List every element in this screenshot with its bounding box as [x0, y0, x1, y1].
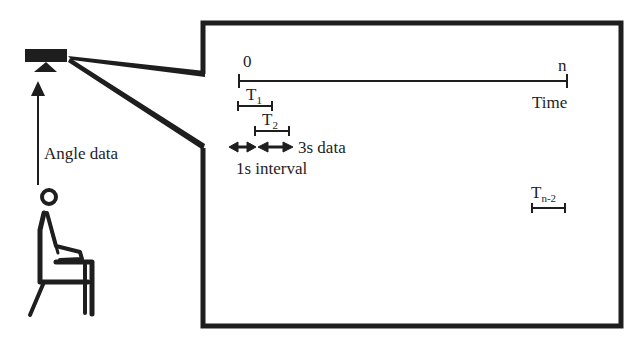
window-label-t2: T2 [262, 111, 278, 131]
interval-label: 1s interval [236, 160, 307, 177]
window-name: T [262, 110, 272, 129]
diagram-canvas [0, 0, 642, 344]
window-subscript: n-2 [541, 192, 556, 204]
window-name: T [531, 183, 541, 202]
angle-data-arrow [31, 81, 45, 185]
sensor-icon [25, 49, 67, 72]
interval-arrows [229, 142, 293, 152]
window-label-t1: T1 [246, 86, 262, 106]
time-axis [239, 74, 567, 88]
callout-cone [68, 56, 205, 150]
window-subscript: 1 [256, 94, 262, 106]
angle-data-label: Angle data [44, 145, 118, 162]
seated-person-icon [30, 190, 92, 315]
window-subscript: 2 [272, 119, 278, 131]
window-brackets [238, 101, 565, 213]
time-axis-label: Time [532, 94, 567, 111]
time-start-label: 0 [243, 53, 252, 70]
window-length-label: 3s data [298, 139, 346, 156]
window-name: T [246, 85, 256, 104]
window-label-tn2: Tn-2 [531, 184, 556, 204]
time-end-label: n [558, 57, 567, 74]
